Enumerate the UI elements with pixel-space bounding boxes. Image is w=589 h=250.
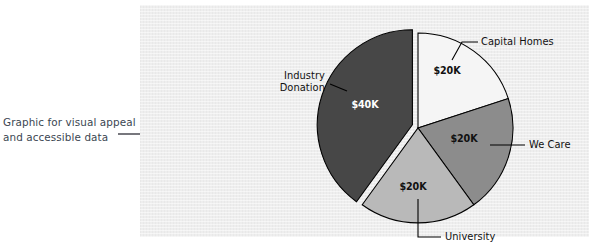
pie-label-we-care: We Care [529,139,571,150]
pie-label-capital-homes: Capital Homes [481,36,554,47]
pie-label-university: University [445,231,495,242]
screenshot-root: Graphic for visual appeal and accessible… [0,0,589,250]
pie-label-industry-donation-line2: Donation [280,82,325,93]
pie-label-industry-donation-line1: Industry [284,70,325,81]
pie-slice-value-capital-homes: $20K [433,65,461,76]
pie-slice-value-university: $20K [399,181,427,192]
pie-chart: $40K $20K $20K $20K Capital Homes We Car… [0,0,589,250]
pie-slice-value-industry-donation: $40K [351,99,379,110]
pie-slice-value-we-care: $20K [450,133,478,144]
